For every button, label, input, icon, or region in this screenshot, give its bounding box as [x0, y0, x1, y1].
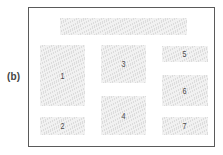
block-number: 2 [60, 121, 64, 131]
block-number: 1 [60, 71, 64, 81]
block-number: 6 [183, 86, 187, 96]
block-number: 5 [183, 49, 187, 59]
layout-block-7: 7 [162, 117, 208, 135]
layout-block-1: 1 [40, 45, 85, 106]
layout-block-4: 4 [101, 96, 146, 135]
layout-block-5: 5 [162, 46, 208, 62]
header-block [60, 18, 187, 35]
layout-block-6: 6 [162, 75, 208, 106]
block-number: 4 [121, 111, 125, 121]
figure-label: (b) [7, 71, 20, 82]
layout-block-2: 2 [40, 117, 85, 135]
layout-block-3: 3 [101, 45, 146, 83]
block-number: 3 [121, 59, 125, 69]
block-number: 7 [183, 121, 187, 131]
